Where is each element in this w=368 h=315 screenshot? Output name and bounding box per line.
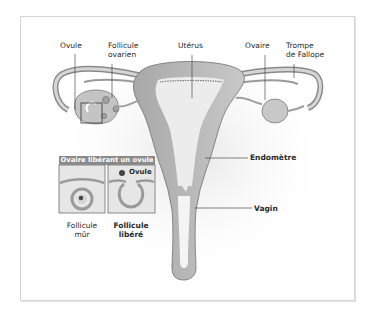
label-follicule-line2: ovarien: [108, 50, 136, 59]
label-endometre: Endomètre: [250, 153, 296, 162]
label-ovule: Ovule: [60, 41, 82, 50]
caption-follicule-libere-line2: libéré: [111, 230, 151, 239]
inset-label-ovule: Ovule: [129, 168, 152, 177]
caption-follicule-mur-line1: Follicule: [62, 221, 102, 230]
caption-follicule-libere-line1: Follicule: [111, 221, 151, 230]
inset-title: Ovaire libérant un ovule: [59, 156, 155, 165]
label-uterus: Utérus: [178, 41, 203, 50]
label-trompe-line2: de Fallope: [286, 50, 324, 59]
label-trompe-line1: Trompe: [286, 41, 314, 50]
label-vagin: Vagin: [254, 204, 278, 213]
label-ovaire: Ovaire: [245, 41, 270, 50]
caption-follicule-mur-line2: mûr: [62, 230, 102, 239]
label-follicule-line1: Follicule: [108, 41, 138, 50]
